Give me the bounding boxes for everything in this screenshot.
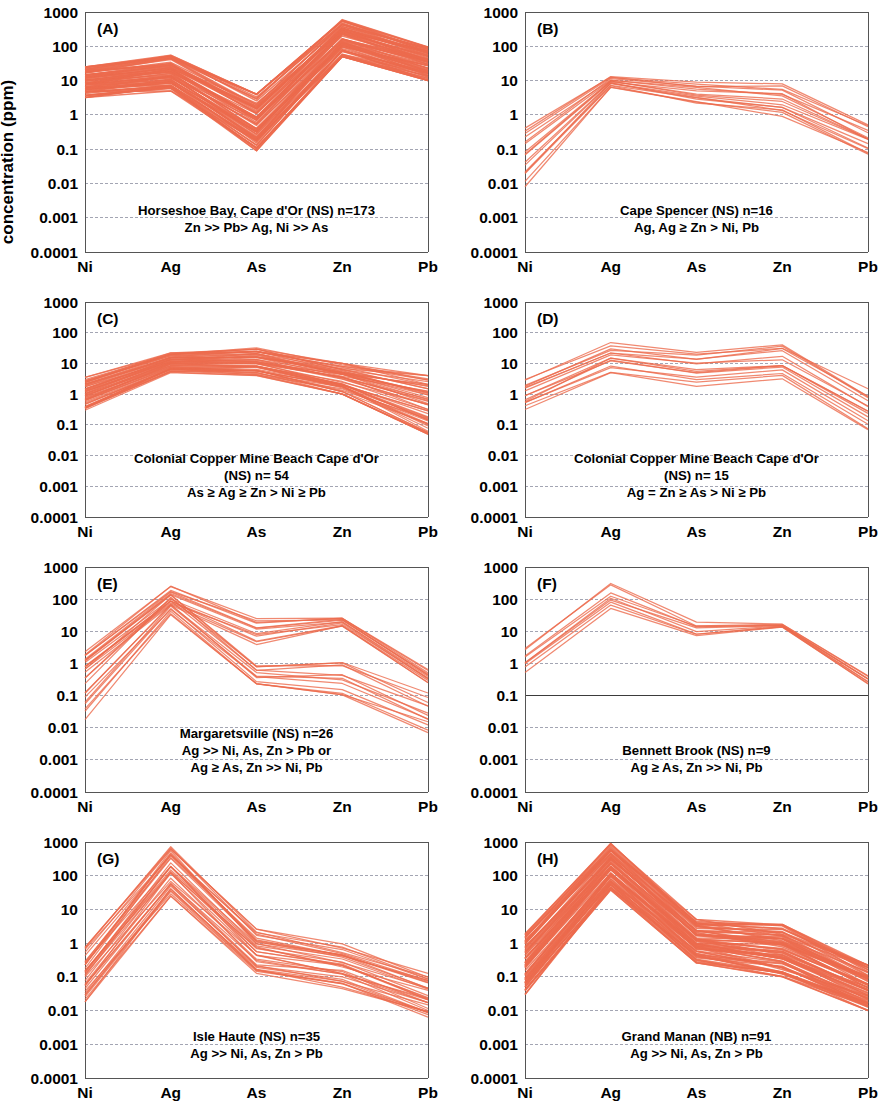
svg-text:(H): (H) — [537, 850, 559, 867]
svg-text:Colonial Copper Mine Beach Cap: Colonial Copper Mine Beach Cape d'Or — [574, 451, 819, 466]
svg-text:Pb: Pb — [858, 523, 878, 540]
svg-text:0.0001: 0.0001 — [31, 244, 79, 261]
svg-text:Ni: Ni — [517, 523, 533, 540]
svg-text:Ag = Zn ≥ As > Ni ≥ Pb: Ag = Zn ≥ As > Ni ≥ Pb — [627, 485, 766, 500]
svg-text:Pb: Pb — [418, 798, 438, 815]
svg-text:(A): (A) — [97, 20, 119, 37]
svg-text:0.1: 0.1 — [496, 141, 518, 158]
svg-text:Pb: Pb — [858, 798, 878, 815]
svg-text:As: As — [687, 258, 707, 275]
chart-panel-e: 10001001010.10.010.0010.0001NiAgAsZnPb(E… — [0, 555, 440, 830]
svg-text:Bennett Brook (NS) n=9: Bennett Brook (NS) n=9 — [622, 743, 770, 758]
svg-text:Ag: Ag — [600, 1084, 621, 1101]
svg-text:10: 10 — [501, 355, 518, 372]
svg-text:0.0001: 0.0001 — [31, 1070, 79, 1087]
svg-text:0.0001: 0.0001 — [471, 784, 519, 801]
svg-text:0.1: 0.1 — [56, 968, 78, 985]
svg-text:Ni: Ni — [77, 258, 93, 275]
svg-text:0.001: 0.001 — [479, 209, 518, 226]
svg-text:Horseshoe Bay, Cape d'Or (NS): Horseshoe Bay, Cape d'Or (NS) n=173 — [138, 203, 375, 218]
svg-text:Colonial Copper Mine Beach Cap: Colonial Copper Mine Beach Cape d'Or — [134, 451, 379, 466]
svg-text:Zn: Zn — [333, 1084, 352, 1101]
svg-text:100: 100 — [52, 867, 78, 884]
svg-text:Ag >> Ni, As, Zn > Pb: Ag >> Ni, As, Zn > Pb — [190, 1046, 323, 1061]
chart-panel-b: 10001001010.10.010.0010.0001NiAgAsZnPb(B… — [440, 0, 880, 290]
svg-text:10: 10 — [61, 623, 78, 640]
svg-text:0.1: 0.1 — [56, 687, 78, 704]
svg-text:Pb: Pb — [418, 1084, 438, 1101]
svg-text:1: 1 — [69, 106, 78, 123]
svg-text:1: 1 — [509, 935, 518, 952]
svg-text:As: As — [687, 798, 707, 815]
svg-text:Zn: Zn — [333, 523, 352, 540]
svg-text:100: 100 — [492, 591, 518, 608]
svg-text:0.0001: 0.0001 — [471, 509, 519, 526]
svg-text:As: As — [247, 798, 267, 815]
svg-text:1: 1 — [69, 655, 78, 672]
chart-panel-f: 10001001010.10.010.0010.0001NiAgAsZnPb(F… — [440, 555, 880, 830]
svg-text:10: 10 — [61, 72, 78, 89]
chart-panel-g: 10001001010.10.010.0010.0001NiAgAsZnPb(G… — [0, 830, 440, 1116]
svg-text:0.001: 0.001 — [479, 478, 518, 495]
svg-text:1: 1 — [509, 386, 518, 403]
svg-text:Margaretsville (NS) n=26: Margaretsville (NS) n=26 — [180, 726, 334, 741]
svg-text:As: As — [687, 523, 707, 540]
svg-text:(B): (B) — [537, 20, 559, 37]
svg-text:100: 100 — [52, 324, 78, 341]
svg-text:1000: 1000 — [484, 834, 518, 851]
svg-text:100: 100 — [492, 324, 518, 341]
svg-text:Isle Haute (NS) n=35: Isle Haute (NS) n=35 — [193, 1029, 320, 1044]
svg-text:Ni: Ni — [517, 1084, 533, 1101]
svg-text:0.1: 0.1 — [56, 416, 78, 433]
svg-text:Ni: Ni — [517, 798, 533, 815]
chart-panel-a: 10001001010.10.010.0010.0001NiAgAsZnPb(A… — [0, 0, 440, 290]
chart-panel-c: 10001001010.10.010.0010.0001NiAgAsZnPb(C… — [0, 290, 440, 555]
svg-text:Ag, Ag ≥ Zn > Ni, Pb: Ag, Ag ≥ Zn > Ni, Pb — [634, 220, 759, 235]
svg-text:100: 100 — [492, 38, 518, 55]
svg-text:10: 10 — [501, 72, 518, 89]
svg-text:0.0001: 0.0001 — [471, 1070, 519, 1087]
svg-text:Zn: Zn — [773, 523, 792, 540]
svg-text:0.01: 0.01 — [488, 175, 519, 192]
svg-text:100: 100 — [52, 591, 78, 608]
svg-text:As ≥ Ag ≥ Zn > Ni ≥ Pb: As ≥ Ag ≥ Zn > Ni ≥ Pb — [187, 485, 326, 500]
svg-text:Ag: Ag — [600, 523, 621, 540]
svg-text:Ag: Ag — [160, 1084, 181, 1101]
svg-text:Grand Manan (NB) n=91: Grand Manan (NB) n=91 — [622, 1029, 772, 1044]
svg-text:(G): (G) — [97, 850, 119, 867]
svg-text:1: 1 — [69, 386, 78, 403]
svg-text:Zn >> Pb> Ag, Ni >> As: Zn >> Pb> Ag, Ni >> As — [185, 220, 329, 235]
svg-text:1000: 1000 — [44, 4, 78, 21]
svg-text:0.01: 0.01 — [488, 719, 519, 736]
chart-panel-d: 10001001010.10.010.0010.0001NiAgAsZnPb(D… — [440, 290, 880, 555]
svg-text:Zn: Zn — [773, 1084, 792, 1101]
svg-text:Zn: Zn — [773, 798, 792, 815]
svg-text:(NS) n= 15: (NS) n= 15 — [664, 468, 729, 483]
svg-text:0.1: 0.1 — [496, 687, 518, 704]
svg-text:0.1: 0.1 — [496, 968, 518, 985]
svg-text:0.01: 0.01 — [48, 447, 79, 464]
svg-text:10: 10 — [61, 901, 78, 918]
svg-text:0.001: 0.001 — [39, 209, 78, 226]
svg-text:1000: 1000 — [484, 559, 518, 576]
svg-text:(E): (E) — [97, 575, 118, 592]
svg-text:1000: 1000 — [44, 559, 78, 576]
svg-text:As: As — [247, 523, 267, 540]
svg-text:1: 1 — [69, 935, 78, 952]
svg-text:Ag: Ag — [160, 258, 181, 275]
svg-text:Zn: Zn — [773, 258, 792, 275]
svg-text:Zn: Zn — [333, 258, 352, 275]
svg-text:1: 1 — [509, 106, 518, 123]
svg-text:100: 100 — [52, 38, 78, 55]
svg-text:Ni: Ni — [77, 523, 93, 540]
svg-text:Zn: Zn — [333, 798, 352, 815]
svg-text:Ni: Ni — [517, 258, 533, 275]
svg-text:0.0001: 0.0001 — [31, 509, 79, 526]
svg-text:10: 10 — [501, 901, 518, 918]
svg-text:0.001: 0.001 — [479, 1036, 518, 1053]
svg-text:(F): (F) — [537, 575, 557, 592]
svg-text:Pb: Pb — [418, 523, 438, 540]
svg-text:0.01: 0.01 — [48, 719, 79, 736]
svg-text:As: As — [687, 1084, 707, 1101]
svg-text:Ag >> Ni, As, Zn > Pb: Ag >> Ni, As, Zn > Pb — [630, 1046, 763, 1061]
